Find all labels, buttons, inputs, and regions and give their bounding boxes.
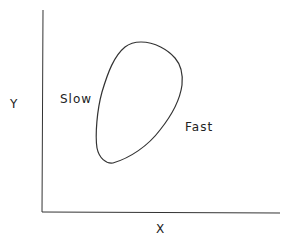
- diagram-canvas: [0, 0, 296, 245]
- x-axis: [42, 212, 280, 213]
- x-axis-label: X: [156, 222, 165, 236]
- slow-label: Slow: [60, 92, 92, 106]
- closed-loop-curve: [96, 42, 182, 163]
- fast-label: Fast: [185, 120, 213, 134]
- y-axis-label: Y: [10, 97, 18, 111]
- y-axis: [42, 10, 43, 212]
